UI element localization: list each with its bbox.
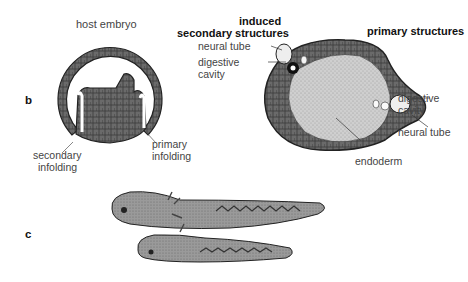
label-digestive-cavity-induced-line1: digestive: [198, 56, 239, 68]
label-endoderm: endoderm: [355, 155, 402, 167]
host-embryo-drawing: [58, 48, 162, 153]
label-digestive-cavity-primary-line2: cavity: [398, 104, 425, 116]
label-primary-infolding-line2: infolding: [152, 150, 191, 162]
label-secondary-infolding-line2: infolding: [38, 161, 77, 173]
label-neural-tube-primary: neural tube: [398, 126, 451, 138]
conjoined-tadpoles-drawing: [112, 192, 325, 262]
label-neural-tube-induced: neural tube: [198, 40, 251, 52]
label-primary-infolding-line1: primary: [152, 138, 187, 150]
label-digestive-cavity-induced-line2: cavity: [198, 68, 225, 80]
label-digestive-cavity-primary-line1: digestive: [398, 92, 439, 104]
label-secondary-infolding-line1: secondary: [33, 149, 81, 161]
